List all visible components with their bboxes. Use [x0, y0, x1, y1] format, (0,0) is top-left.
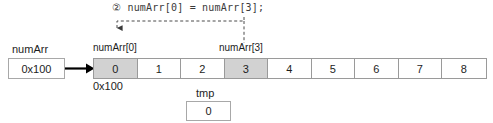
array-index-label-source: numArr[3]: [219, 42, 263, 53]
pointer-arrow-icon: [65, 58, 95, 79]
code-annotation-label: ② numArr[0] = numArr[3];: [112, 2, 264, 13]
array-cell-8[interactable]: 8: [442, 59, 486, 78]
array-base-address-label: 0x100: [93, 80, 123, 92]
tmp-value-box: 0: [186, 101, 231, 121]
array-cell-7[interactable]: 7: [399, 59, 443, 78]
tmp-variable-label: tmp: [196, 87, 214, 99]
array-cell-2[interactable]: 2: [181, 59, 225, 78]
array-cell-3[interactable]: 3: [225, 59, 269, 78]
pointer-variable-label: numArr: [12, 43, 48, 55]
pointer-value-box: 0x100: [8, 58, 65, 79]
array-index-label-destination: numArr[0]: [93, 42, 137, 53]
array-cell-1[interactable]: 1: [138, 59, 182, 78]
array-assignment-diagram: ② numArr[0] = numArr[3]; numArr 0x100 nu…: [0, 0, 493, 123]
array-row: 0 1 2 3 4 5 6 7 8: [93, 58, 487, 79]
array-cell-0[interactable]: 0: [94, 59, 138, 78]
array-cell-5[interactable]: 5: [312, 59, 356, 78]
array-cell-4[interactable]: 4: [268, 59, 312, 78]
array-cell-6[interactable]: 6: [355, 59, 399, 78]
